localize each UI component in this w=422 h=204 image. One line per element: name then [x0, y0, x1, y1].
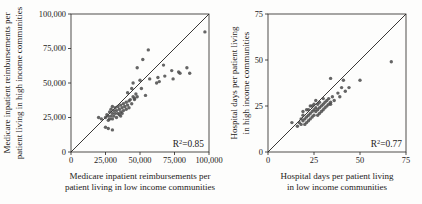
data-point — [329, 77, 332, 80]
data-point — [130, 87, 133, 90]
data-point — [130, 102, 133, 105]
panel-hospital-days: 02550750255075R2=0.77Hospital days per p… — [229, 10, 410, 192]
data-point — [178, 72, 181, 75]
data-point — [111, 105, 114, 108]
data-point — [162, 63, 165, 66]
data-point — [347, 86, 350, 89]
figure-canvas: 025,00050,00075,000100,000025,00050,0007… — [0, 0, 422, 204]
data-point — [312, 114, 315, 117]
y-tick-label: 25,000 — [43, 113, 66, 122]
data-point — [329, 103, 332, 106]
data-point — [203, 30, 206, 33]
data-point — [390, 60, 393, 63]
y-tick-label: 50,000 — [43, 79, 66, 88]
data-point — [305, 108, 308, 111]
y-axis-title-line: Hospital days per patient living — [229, 26, 239, 139]
data-point — [107, 127, 110, 130]
data-point — [171, 77, 174, 80]
data-point — [290, 121, 293, 124]
identity-line — [71, 14, 209, 152]
y-axis-title-line: in high income communities — [241, 31, 251, 134]
data-point — [119, 114, 122, 117]
y-axis-title-line: patient living in high income communitie… — [14, 6, 24, 159]
data-point — [140, 87, 143, 90]
data-point — [148, 77, 151, 80]
y-tick-label: 25 — [255, 102, 263, 111]
data-point — [358, 79, 361, 82]
y-axis-title-line: Medicare inpatient reimbursements per — [2, 12, 12, 153]
x-tick-label: 50 — [356, 156, 364, 165]
data-point — [156, 76, 159, 79]
data-point — [131, 81, 134, 84]
x-tick-label: 0 — [69, 156, 73, 165]
data-point — [111, 128, 114, 131]
y-tick-label: 50 — [255, 56, 263, 65]
r-squared-value: =0.85 — [182, 139, 204, 149]
data-point — [144, 94, 147, 97]
data-point — [185, 66, 188, 69]
data-point — [158, 80, 161, 83]
x-tick-label: 100,000 — [195, 156, 222, 165]
data-point — [129, 98, 132, 101]
y-tick-label: 75 — [255, 10, 263, 19]
data-points — [290, 60, 393, 128]
x-tick-label: 75 — [402, 156, 410, 165]
data-point — [342, 79, 345, 82]
data-point — [338, 95, 341, 98]
x-axis-title-line: in low income communities — [287, 182, 388, 192]
data-point — [126, 91, 129, 94]
data-point — [141, 58, 144, 61]
data-point — [299, 123, 302, 126]
r-squared-value: =0.77 — [380, 139, 402, 149]
y-tick-label: 0 — [259, 148, 263, 157]
data-point — [322, 97, 325, 100]
data-point — [301, 114, 304, 117]
data-point — [100, 117, 103, 120]
data-point — [127, 106, 130, 109]
data-point — [136, 66, 139, 69]
data-point — [331, 95, 334, 98]
data-point — [340, 86, 343, 89]
x-axis-title-line: Medicare inpatient reimbursements per — [69, 171, 210, 181]
data-point — [188, 72, 191, 75]
data-point — [318, 101, 321, 104]
r-squared-label: R2=0.85 — [173, 138, 204, 149]
data-point — [311, 104, 314, 107]
data-points — [97, 30, 207, 131]
x-tick-label: 75,000 — [163, 156, 186, 165]
y-tick-label: 0 — [62, 148, 66, 157]
x-tick-label: 0 — [266, 156, 270, 165]
scatter-plots-svg: 025,00050,00075,000100,000025,00050,0007… — [0, 0, 422, 204]
x-axis-title-line: patient living in low income communities — [65, 182, 216, 192]
data-point — [133, 97, 136, 100]
data-point — [301, 110, 304, 113]
data-point — [344, 90, 347, 93]
y-tick-label: 75,000 — [43, 44, 66, 53]
x-tick-label: 25 — [310, 156, 318, 165]
data-point — [336, 91, 339, 94]
data-point — [138, 79, 141, 82]
identity-line — [268, 14, 406, 152]
data-point — [163, 74, 166, 77]
data-point — [296, 125, 299, 128]
data-point — [115, 116, 118, 119]
data-point — [170, 69, 173, 72]
data-point — [314, 99, 317, 102]
r-squared-label: R2=0.77 — [371, 138, 402, 149]
y-tick-label: 100,000 — [39, 10, 66, 19]
x-tick-label: 50,000 — [128, 156, 151, 165]
data-point — [333, 99, 336, 102]
x-tick-label: 25,000 — [94, 156, 117, 165]
data-point — [327, 97, 330, 100]
x-axis-title-line: Hospital days per patient living — [281, 171, 394, 181]
data-point — [147, 48, 150, 51]
panel-medicare-reimbursements: 025,00050,00075,000100,000025,00050,0007… — [2, 6, 223, 192]
